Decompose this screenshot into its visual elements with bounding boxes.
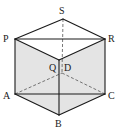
label-d: D — [64, 62, 71, 73]
edge-sp — [15, 19, 63, 39]
label-p: P — [3, 33, 9, 44]
label-q: Q — [49, 62, 57, 73]
label-r: R — [108, 33, 115, 44]
label-s: S — [59, 5, 65, 16]
cube-diagram: S P R Q D A C B — [0, 0, 122, 134]
face-qrcb — [59, 39, 105, 115]
label-a: A — [3, 90, 11, 101]
edge-sr — [63, 19, 105, 39]
label-b: B — [55, 118, 62, 129]
label-c: C — [108, 90, 115, 101]
